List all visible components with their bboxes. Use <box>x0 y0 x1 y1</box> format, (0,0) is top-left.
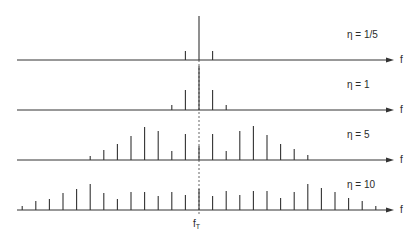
carrier-frequency-label-sub: T <box>196 223 200 230</box>
modulation-index-label: η = 10 <box>347 180 375 190</box>
modulation-index-label: η = 5 <box>347 130 370 140</box>
axis-arrow-icon <box>386 158 394 163</box>
modulation-index-label: η = 1 <box>347 80 370 90</box>
axis-label-f: f <box>400 155 403 165</box>
spectrum-panel <box>17 16 394 63</box>
spectrum-panel <box>17 126 394 163</box>
axis-arrow-icon <box>386 208 394 213</box>
spectrum-panel <box>17 66 394 113</box>
axis-label-f: f <box>400 55 403 65</box>
axis-arrow-icon <box>386 108 394 113</box>
axis-arrow-icon <box>386 58 394 63</box>
spectrum-panels <box>17 16 394 213</box>
spectrum-panel <box>17 184 394 213</box>
carrier-frequency-label: fT <box>193 219 200 230</box>
axis-label-f: f <box>400 105 403 115</box>
modulation-index-label: η = 1/5 <box>347 30 378 40</box>
axis-label-f: f <box>400 205 403 215</box>
